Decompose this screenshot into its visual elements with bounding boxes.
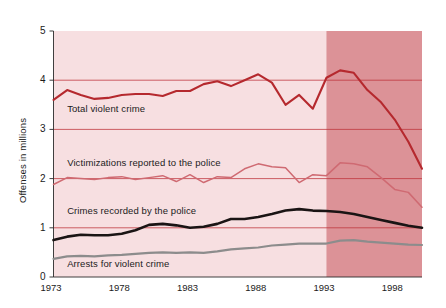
series-label-1: Victimizations reported to the police [67,157,221,168]
x-tick-label: 1983 [177,282,198,293]
y-tick-label: 2 [20,173,46,184]
x-tick-label: 1998 [382,282,403,293]
series-label-0: Total violent crime [67,103,145,114]
y-tick-label: 5 [20,25,46,36]
y-tick-label: 1 [20,222,46,233]
violent-crime-line-chart: Offenses in millions 012345 197319781983… [0,0,446,308]
x-tick-label: 1978 [109,282,130,293]
series-label-2: Crimes recorded by the police [67,205,196,216]
y-tick-label: 4 [20,74,46,85]
x-tick-label: 1988 [245,282,266,293]
y-axis-title: Offenses in millions [17,91,28,231]
y-tick-label: 3 [20,123,46,134]
series-label-3: Arrests for violent crime [67,258,169,269]
x-tick-label: 1973 [41,282,62,293]
y-tick-label: 0 [20,271,46,282]
x-tick-label: 1993 [313,282,334,293]
